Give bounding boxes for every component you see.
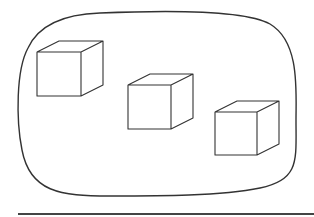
diagram-canvas: [0, 0, 314, 217]
cube-outline: [37, 41, 103, 96]
diagram-svg: [0, 0, 314, 217]
cube-group: [37, 41, 279, 155]
cube-1: [37, 41, 103, 96]
cube-outline: [215, 101, 279, 155]
cube-outline: [128, 74, 193, 129]
cube-3: [215, 101, 279, 155]
cube-2: [128, 74, 193, 129]
